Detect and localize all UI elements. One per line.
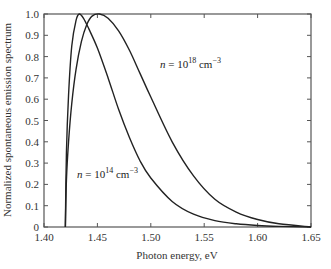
y-tick-label: 0.5 [25, 115, 39, 127]
y-tick-label: 0.2 [25, 178, 39, 190]
x-tick-label: 1.50 [141, 231, 161, 243]
curve-n18 [65, 14, 311, 227]
spectrum-curves [65, 14, 311, 227]
curve-n14 [65, 14, 311, 227]
y-tick-label: 0.1 [25, 200, 39, 212]
y-tick-label: 0.3 [25, 157, 39, 169]
x-tick-label: 1.65 [301, 231, 321, 243]
y-tick-label: 0.9 [25, 29, 39, 41]
y-tick-label: 0.8 [25, 51, 39, 63]
x-axis-label: Photon energy, eV [136, 249, 217, 261]
x-tick-label: 1.45 [88, 231, 108, 243]
y-tick-label: 0.4 [25, 136, 39, 148]
y-tick-label: 0 [34, 221, 40, 233]
y-tick-label: 0.7 [25, 72, 39, 84]
y-axis-label: Normalized spontaneous emission spectrum [1, 23, 13, 217]
plot-frame [44, 14, 311, 227]
x-tick-label: 1.55 [195, 231, 215, 243]
plot-border [44, 14, 311, 227]
y-tick-label: 1.0 [25, 8, 39, 20]
y-tick-label: 0.6 [25, 93, 39, 105]
emission-spectrum-chart: 1.401.451.501.551.601.65 00.10.20.30.40.… [0, 0, 331, 269]
x-axis-ticks: 1.401.451.501.551.601.65 [34, 14, 321, 243]
annotation-n14: n = 1014 cm−3 [77, 166, 138, 180]
annotation-n18: n = 1018 cm−3 [160, 56, 221, 70]
x-tick-label: 1.60 [248, 231, 268, 243]
